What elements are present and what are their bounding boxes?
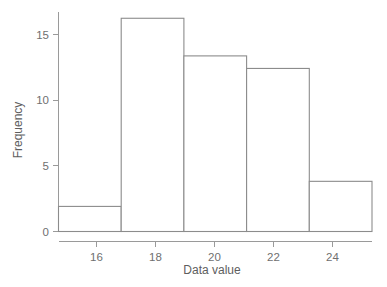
histogram-bar	[121, 18, 184, 231]
x-axis-ticks: 16 18 20 22 24	[90, 242, 339, 264]
y-axis-ticks: 0 5 10 15	[36, 29, 58, 238]
histogram-bar	[309, 181, 372, 231]
x-tick-label-22: 22	[267, 251, 280, 263]
x-tick-label-24: 24	[326, 251, 339, 263]
y-tick-label-15: 15	[36, 29, 49, 41]
histogram-bar	[247, 68, 310, 231]
histogram-bars	[59, 18, 373, 231]
x-tick-label-20: 20	[208, 251, 221, 263]
y-axis-title: Frequency	[11, 102, 25, 159]
y-tick-label-10: 10	[36, 94, 49, 106]
x-tick-label-18: 18	[149, 251, 162, 263]
y-tick-label-5: 5	[43, 160, 49, 172]
histogram-bar	[59, 206, 122, 231]
histogram-bar	[184, 56, 247, 232]
histogram-chart: 0 5 10 15 16 18 20 22 24 Data value Freq…	[0, 0, 387, 287]
x-tick-label-16: 16	[90, 251, 103, 263]
histogram-svg: 0 5 10 15 16 18 20 22 24 Data value Freq…	[0, 0, 387, 287]
x-axis-title: Data value	[183, 263, 241, 277]
y-tick-label-0: 0	[43, 226, 49, 238]
